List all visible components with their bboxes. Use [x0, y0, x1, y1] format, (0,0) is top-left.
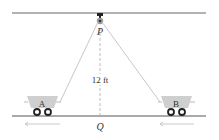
arrow-left-icon: [160, 122, 194, 126]
rope-right: [102, 22, 160, 102]
cart-a-label: A: [39, 99, 46, 109]
cart-pulley-diagram: P 12 ft Q A B: [0, 0, 219, 140]
wheel-icon: [168, 109, 174, 115]
pulley-label: P: [96, 26, 103, 37]
wheel-icon: [179, 109, 185, 115]
arrow-left-icon: [25, 122, 60, 126]
rope-left: [60, 22, 98, 102]
height-label: 12 ft: [92, 75, 109, 85]
wheel-icon: [34, 109, 40, 115]
cart-b-label: B: [173, 99, 179, 109]
wheel-icon: [45, 109, 51, 115]
ground-point-label: Q: [96, 121, 104, 132]
